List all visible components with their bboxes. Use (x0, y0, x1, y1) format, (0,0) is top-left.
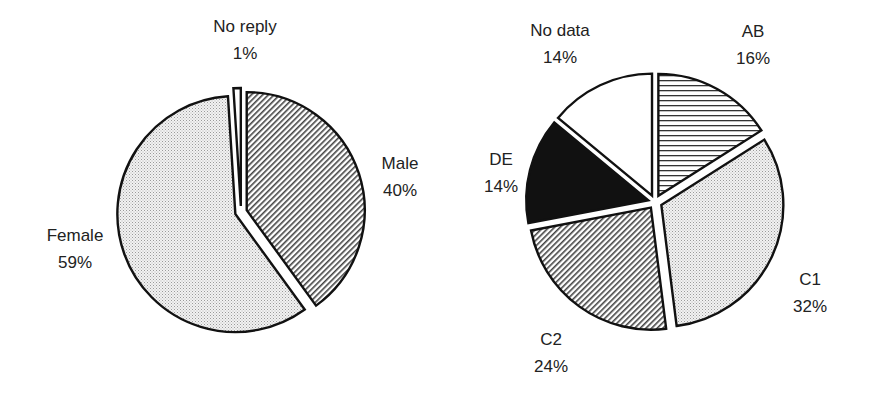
pie-slice-c2 (531, 208, 666, 330)
label-no-data: No data 14% (515, 17, 605, 71)
label-de: DE 14% (476, 146, 526, 200)
label-c1: C1 32% (780, 266, 840, 320)
social-grade-pie-chart (526, 74, 783, 330)
label-ab: AB 16% (723, 18, 783, 72)
label-no-reply: No reply 1% (200, 13, 290, 67)
label-c2: C2 24% (526, 326, 576, 380)
label-male: Male 40% (370, 150, 430, 204)
label-female: Female 59% (35, 222, 115, 276)
gender-pie-chart (117, 88, 364, 332)
